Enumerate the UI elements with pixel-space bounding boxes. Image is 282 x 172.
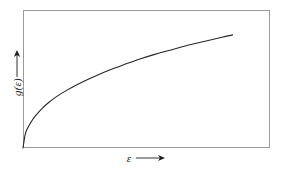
curve-svg (23, 10, 270, 148)
curve-layer (23, 10, 270, 148)
y-axis-label: g(ε) (4, 48, 30, 130)
x-axis-label-text: ε (127, 153, 131, 164)
density-of-states-figure: g(ε) ε (0, 0, 282, 172)
x-axis-label: ε (23, 150, 270, 166)
right-arrow-icon (136, 153, 166, 163)
right-arrow-svg (136, 153, 166, 163)
up-arrow-svg (4, 48, 30, 78)
up-arrow-icon (4, 48, 30, 78)
gofe-curve (23, 35, 233, 148)
y-axis-label-text: g(ε) (11, 78, 23, 96)
